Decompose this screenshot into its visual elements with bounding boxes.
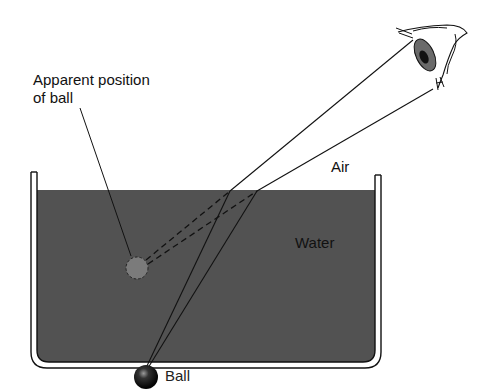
water-body (37, 190, 375, 362)
apparent-position-label-line1: Apparent position (33, 71, 150, 89)
refraction-diagram (0, 0, 499, 389)
ray-air-1 (230, 40, 413, 191)
eye-icon (396, 25, 467, 90)
ball (134, 365, 158, 389)
apparent-position-label-line2: of ball (33, 89, 73, 107)
air-label: Air (331, 158, 349, 176)
ball-label: Ball (165, 367, 190, 385)
water-label: Water (295, 234, 334, 252)
apparent-ball (126, 257, 148, 279)
